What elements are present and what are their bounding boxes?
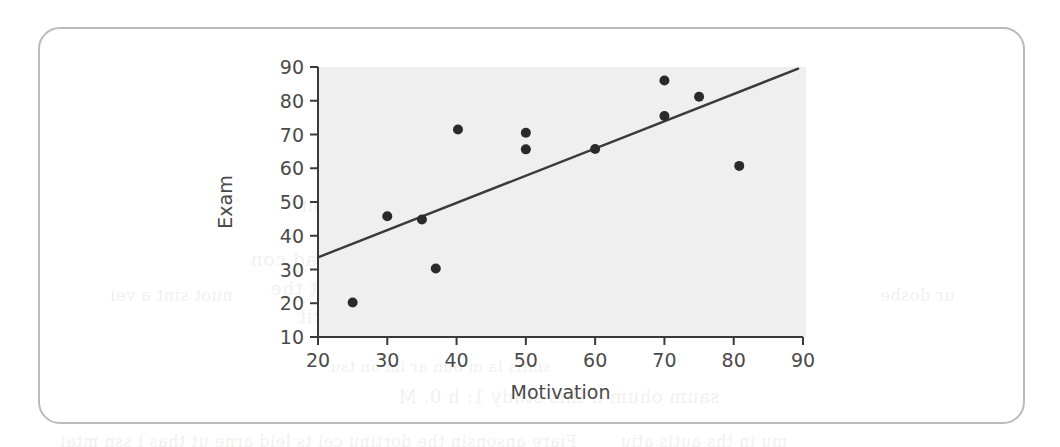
y-tick-label: 80 xyxy=(280,90,304,112)
y-tick-label: 60 xyxy=(280,157,304,179)
y-tick-label: 50 xyxy=(280,191,304,213)
y-tick-label: 40 xyxy=(280,225,304,247)
data-point xyxy=(590,144,600,154)
x-axis: 2030405060708090 xyxy=(306,337,815,371)
x-tick-label: 90 xyxy=(791,349,815,371)
data-point xyxy=(453,124,463,134)
plot-svg: 102030405060708090 2030405060708090 Moti… xyxy=(0,0,1060,447)
plot-panel-group xyxy=(318,67,806,337)
x-tick-label: 40 xyxy=(444,349,468,371)
y-tick-label: 30 xyxy=(280,259,304,281)
y-axis-title: Exam xyxy=(214,175,236,228)
data-point xyxy=(659,111,669,121)
y-tick-label: 10 xyxy=(280,326,304,348)
x-tick-label: 60 xyxy=(583,349,607,371)
data-point xyxy=(734,161,744,171)
plot-panel-background xyxy=(318,67,806,337)
x-axis-title: Motivation xyxy=(510,381,610,403)
x-tick-label: 20 xyxy=(306,349,330,371)
x-tick-label: 30 xyxy=(375,349,399,371)
data-point xyxy=(348,298,358,308)
y-tick-label: 90 xyxy=(280,56,304,78)
x-tick-label: 70 xyxy=(652,349,676,371)
data-point xyxy=(431,263,441,273)
data-point xyxy=(521,144,531,154)
y-tick-label: 70 xyxy=(280,124,304,146)
data-point xyxy=(694,92,704,102)
y-axis: 102030405060708090 xyxy=(280,56,318,348)
x-tick-label: 80 xyxy=(722,349,746,371)
x-tick-label: 50 xyxy=(514,349,538,371)
data-point xyxy=(417,215,427,225)
data-point xyxy=(659,76,669,86)
y-tick-label: 20 xyxy=(280,292,304,314)
data-point xyxy=(521,128,531,138)
data-point xyxy=(382,211,392,221)
scatter-plot: 102030405060708090 2030405060708090 Moti… xyxy=(0,0,1060,447)
